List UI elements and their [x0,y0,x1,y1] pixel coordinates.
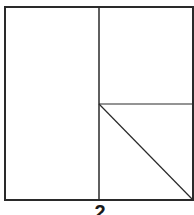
geometry-figure [0,0,194,215]
diagonal-line [99,104,193,200]
figure-label: 2 [88,202,112,215]
